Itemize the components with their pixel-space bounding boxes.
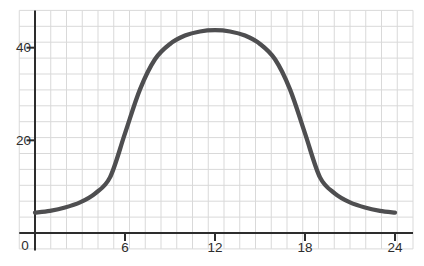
y-tick-label: 20 [16, 133, 31, 148]
x-tick-label: 18 [297, 240, 312, 255]
x-tick-label: 12 [207, 240, 222, 255]
origin-label: 0 [21, 238, 29, 253]
x-tick-label: 6 [121, 240, 129, 255]
line-chart-figure: 612182420400 [0, 0, 424, 266]
y-tick-label: 40 [16, 40, 31, 55]
chart-canvas: 612182420400 [0, 0, 424, 266]
x-tick-label: 24 [387, 240, 403, 255]
